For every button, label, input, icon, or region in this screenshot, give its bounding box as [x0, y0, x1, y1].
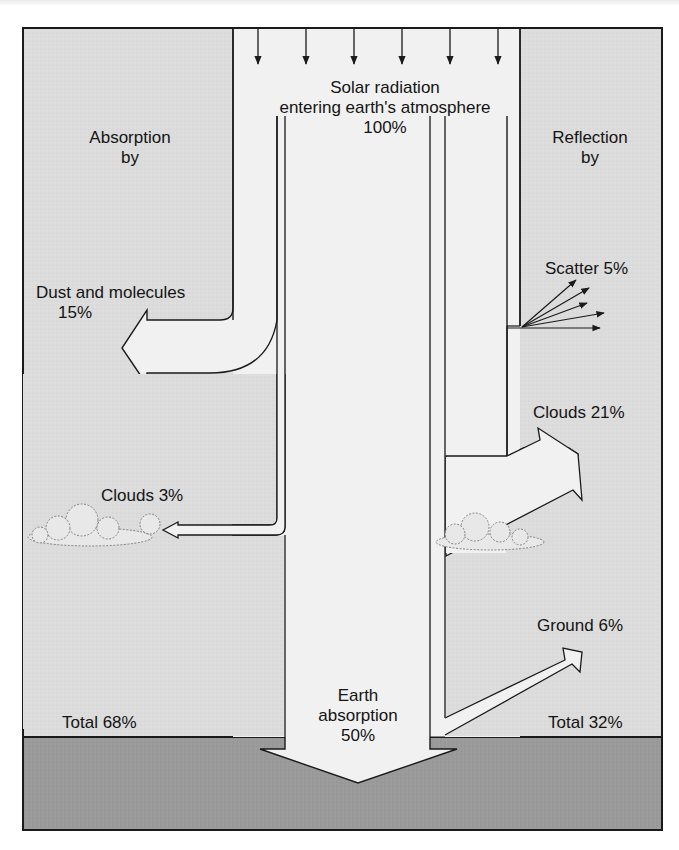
- incoming-percent: 100%: [250, 118, 520, 138]
- reflection-total: Total 32%: [548, 713, 623, 733]
- absorption-heading-line1: Absorption: [55, 128, 205, 148]
- scatter-label: Scatter 5%: [545, 259, 628, 279]
- clouds-absorption-label: Clouds 3%: [101, 486, 183, 506]
- earth-line2: absorption: [298, 706, 418, 726]
- dust-label: Dust and molecules 15%: [36, 283, 185, 323]
- reflection-heading-line2: by: [530, 148, 650, 168]
- earth-absorption-label: Earth absorption 50%: [298, 686, 418, 746]
- clouds-reflection-label: Clouds 21%: [533, 403, 625, 423]
- absorption-total: Total 68%: [62, 713, 137, 733]
- ground-reflection-label: Ground 6%: [537, 616, 623, 636]
- reflection-heading: Reflection by: [530, 128, 650, 168]
- dust-percent: 15%: [36, 303, 185, 323]
- incoming-line2: entering earth's atmosphere: [250, 98, 520, 118]
- earth-percent: 50%: [298, 726, 418, 746]
- absorption-heading-line2: by: [55, 148, 205, 168]
- earth-line1: Earth: [298, 686, 418, 706]
- incoming-line1: Solar radiation: [250, 78, 520, 98]
- dust-label-text: Dust and molecules: [36, 283, 185, 303]
- incoming-label: Solar radiation entering earth's atmosph…: [250, 78, 520, 138]
- absorption-heading: Absorption by: [55, 128, 205, 168]
- reflection-heading-line1: Reflection: [530, 128, 650, 148]
